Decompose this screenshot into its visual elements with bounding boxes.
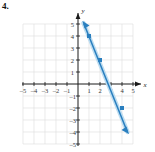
- figure-panel: 4.: [0, 0, 155, 152]
- y-tick-label: –1: [69, 93, 77, 100]
- x-tick-label: –5: [19, 87, 27, 94]
- x-tick-label: –3: [41, 87, 49, 94]
- x-axis-label: x: [142, 81, 147, 89]
- y-tick-label: 5: [71, 21, 74, 28]
- y-tick-label: –4: [69, 129, 77, 136]
- y-tick-label: –2: [69, 105, 77, 112]
- data-point: [87, 34, 91, 38]
- x-tick-label: –2: [52, 87, 60, 94]
- x-tick-label: 1: [87, 87, 90, 94]
- y-tick-label: 1: [71, 69, 74, 76]
- x-tick-labels: –5 –4 –3 –2 –1 1 2 3 4 5: [19, 87, 135, 94]
- y-axis-label: y: [80, 7, 85, 15]
- y-tick-label: –5: [69, 141, 77, 148]
- y-tick-label: –3: [69, 117, 77, 124]
- data-point: [120, 106, 124, 110]
- line-stroke: [84, 24, 127, 131]
- y-axis-arrow: [76, 13, 81, 19]
- data-point: [98, 58, 102, 62]
- x-axis-arrow: [135, 82, 141, 87]
- x-tick-label: 5: [131, 87, 134, 94]
- x-tick-label: 2: [98, 87, 101, 94]
- y-tick-label: 3: [71, 45, 74, 52]
- coordinate-graph: –5 –4 –3 –2 –1 1 2 3 4 5 5 4 3 2 1 –1 –2…: [0, 0, 155, 152]
- x-tick-label: 4: [120, 87, 124, 94]
- x-tick-label: –4: [30, 87, 38, 94]
- y-tick-label: 2: [71, 57, 74, 64]
